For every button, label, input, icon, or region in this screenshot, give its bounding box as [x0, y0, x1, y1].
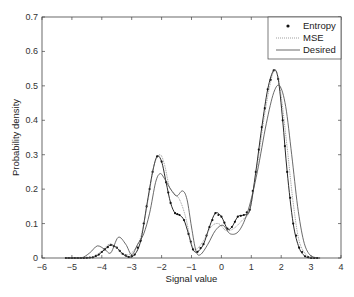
- entropy-marker: [304, 255, 306, 257]
- entropy-marker: [298, 247, 300, 249]
- x-tick-label: −2: [156, 262, 166, 272]
- entropy-marker: [202, 243, 204, 245]
- entropy-marker: [199, 247, 201, 249]
- mse-curve: [66, 70, 314, 258]
- desired-curve: [66, 85, 317, 258]
- x-tick-label: −3: [127, 262, 137, 272]
- legend: Entropy MSE Desired: [268, 17, 341, 59]
- entropy-marker: [167, 192, 169, 194]
- entropy-marker: [286, 171, 288, 173]
- legend-mse: MSE: [303, 32, 324, 43]
- entropy-marker: [301, 251, 303, 253]
- legend-desired: Desired: [303, 44, 336, 55]
- x-tick-label: 1: [249, 262, 254, 272]
- entropy-marker: [267, 88, 269, 90]
- entropy-marker: [220, 216, 222, 218]
- x-tick-label: −5: [67, 262, 77, 272]
- entropy-marker: [223, 222, 225, 224]
- x-tick-label: 2: [279, 262, 284, 272]
- chart-canvas: −6−5−4−3−2−10123400.10.20.30.40.50.60.7 …: [0, 0, 354, 297]
- entropy-marker-icon: [286, 24, 289, 27]
- legend-entropy: Entropy: [303, 20, 336, 31]
- entropy-marker: [183, 219, 185, 221]
- entropy-marker: [170, 202, 172, 204]
- entropy-curve: [66, 70, 320, 258]
- x-tick-label: −1: [186, 262, 196, 272]
- entropy-marker: [240, 215, 242, 217]
- entropy-marker: [107, 246, 109, 248]
- entropy-marker: [214, 212, 216, 214]
- x-tick-label: −4: [97, 262, 107, 272]
- y-tick-label: 0.6: [25, 46, 38, 56]
- y-tick-label: 0.4: [25, 115, 38, 125]
- x-axis-label: Signal value: [166, 273, 218, 284]
- entropy-marker: [134, 254, 136, 256]
- entropy-marker: [284, 145, 286, 147]
- entropy-marker: [161, 161, 163, 163]
- x-tick-label: 4: [338, 262, 343, 272]
- y-tick-label: 0.2: [25, 184, 38, 194]
- entropy-marker: [234, 221, 236, 223]
- entropy-marker: [282, 119, 284, 121]
- entropy-marker: [292, 223, 294, 225]
- entropy-marker: [289, 197, 291, 199]
- x-tick-label: 3: [309, 262, 314, 272]
- y-tick-label: 0.5: [25, 81, 38, 91]
- y-tick-label: 0.1: [25, 219, 38, 229]
- y-axis-label: Probability density: [10, 99, 21, 176]
- entropy-marker: [178, 214, 180, 216]
- entropy-marker: [217, 214, 219, 216]
- entropy-marker: [295, 235, 297, 237]
- y-tick-label: 0.7: [25, 12, 38, 22]
- entropy-marker: [231, 226, 233, 228]
- x-tick-label: 0: [219, 262, 224, 272]
- y-tick-label: 0: [33, 253, 38, 263]
- entropy-marker: [237, 216, 239, 218]
- entropy-marker: [176, 213, 178, 215]
- entropy-marker: [211, 219, 213, 221]
- y-tick-label: 0.3: [25, 150, 38, 160]
- entropy-marker: [174, 212, 176, 214]
- x-tick-label: −6: [37, 262, 47, 272]
- curves-layer: [65, 69, 320, 259]
- entropy-marker: [243, 214, 245, 216]
